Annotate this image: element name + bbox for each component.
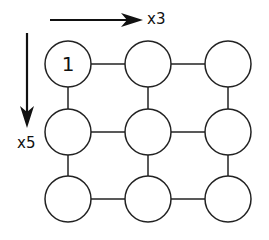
grid-node-circle bbox=[125, 176, 171, 222]
grid-node-circle bbox=[45, 176, 91, 222]
grid-nodes: 1 bbox=[45, 41, 251, 222]
grid-node-circle bbox=[125, 109, 171, 155]
horizontal-multiplier-label: x3 bbox=[147, 12, 165, 27]
grid-node-circle bbox=[205, 176, 251, 222]
grid-node-label: 1 bbox=[62, 52, 75, 76]
vertical-multiplier-label: x5 bbox=[17, 136, 35, 151]
grid-node-circle bbox=[205, 41, 251, 87]
grid-node-circle bbox=[125, 41, 171, 87]
grid-node-circle bbox=[45, 109, 91, 155]
grid-diagram: 1 bbox=[0, 0, 269, 240]
grid-node-circle bbox=[205, 109, 251, 155]
